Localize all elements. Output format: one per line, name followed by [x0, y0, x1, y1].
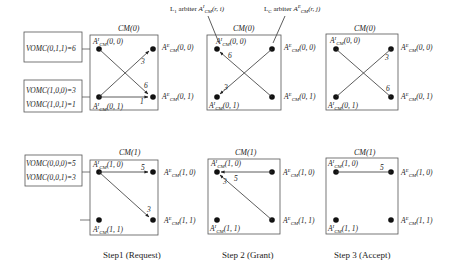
- svg-text:AICM(0, 0): AICM(0, 0): [329, 36, 361, 46]
- output-arbiter-callout: LC arbiter AECM(r, j): [264, 4, 321, 43]
- svg-text:5: 5: [234, 174, 238, 183]
- svg-text:AECM(0, 1): AECM(0, 1): [400, 92, 433, 102]
- svg-text:CM(0): CM(0): [118, 24, 140, 33]
- svg-text:VOMC(1,0,1)=1: VOMC(1,0,1)=1: [26, 100, 76, 109]
- step3-caption: Step 3 (Accept): [334, 250, 390, 260]
- svg-text:VOMC(0,1,1)=6: VOMC(0,1,1)=6: [26, 44, 76, 53]
- step1-caption: Step1 (Request): [103, 250, 161, 260]
- vomc-box-cm0-top: VOMC(0,1,1)=6: [24, 32, 90, 62]
- svg-text:5: 5: [380, 163, 384, 172]
- svg-text:AICM(1, 1): AICM(1, 1): [327, 224, 359, 234]
- svg-text:AICM(1, 0): AICM(1, 0): [210, 159, 242, 169]
- svg-text:6: 6: [228, 51, 232, 60]
- step1-cm0-panel: CM(0) AICM(0, 0) AICM(0, 1) AECM(0, 0) A…: [90, 24, 194, 112]
- svg-text:6: 6: [144, 81, 148, 90]
- svg-text:AECM(1, 1): AECM(1, 1): [163, 216, 196, 226]
- step2-caption: Step 2 (Grant): [222, 250, 274, 260]
- svg-text:1: 1: [140, 97, 144, 106]
- svg-text:AECM(0, 0): AECM(0, 0): [400, 43, 433, 53]
- svg-text:AICM(0, 0): AICM(0, 0): [92, 37, 124, 47]
- svg-text:AECM(1, 0): AECM(1, 0): [400, 168, 433, 178]
- svg-text:AICM(1, 1): AICM(1, 1): [92, 225, 124, 235]
- svg-text:AECM(0, 0): AECM(0, 0): [161, 43, 194, 53]
- vomc-box-cm0-bottom: VOMC(1,0,0)=3 VOMC(1,0,1)=1: [24, 80, 90, 112]
- svg-text:AICM(1, 1): AICM(1, 1): [209, 224, 241, 234]
- svg-text:LC arbiter AECM(r, j): LC arbiter AECM(r, j): [264, 4, 321, 14]
- svg-text:AECM(1, 0): AECM(1, 0): [163, 168, 196, 178]
- svg-text:VOMC(0,0,0)=5: VOMC(0,0,0)=5: [26, 159, 76, 168]
- svg-text:3: 3: [222, 177, 227, 186]
- svg-text:AICM(0, 1): AICM(0, 1): [327, 101, 359, 111]
- svg-text:AECM(1, 1): AECM(1, 1): [282, 216, 315, 226]
- svg-text:AICM(0, 0): AICM(0, 0): [215, 37, 247, 47]
- svg-text:AECM(0, 0): AECM(0, 0): [283, 43, 316, 53]
- svg-text:AECM(0, 1): AECM(0, 1): [283, 92, 316, 102]
- svg-text:5: 5: [141, 163, 145, 172]
- svg-text:CM(0): CM(0): [354, 24, 376, 33]
- svg-text:3: 3: [140, 57, 145, 66]
- svg-text:CM(0): CM(0): [233, 24, 255, 33]
- step3-cm0-panel: CM(0) AICM(0, 0) AICM(0, 1) AECM(0, 0) A…: [326, 24, 433, 111]
- svg-text:3: 3: [223, 83, 228, 92]
- svg-text:VOMC(0,0,1)=3: VOMC(0,0,1)=3: [26, 173, 76, 182]
- svg-text:AECM(1, 1): AECM(1, 1): [400, 216, 433, 226]
- svg-text:L1 arbiter AICM(r, i): L1 arbiter AICM(r, i): [170, 4, 225, 14]
- svg-text:CM(1): CM(1): [354, 148, 376, 157]
- svg-text:3: 3: [146, 205, 151, 214]
- step3-cm1-panel: CM(1) AICM(1, 0) AICM(1, 1) AECM(1, 0) A…: [326, 148, 433, 260]
- svg-text:AICM(1, 0): AICM(1, 0): [327, 159, 359, 169]
- step2-cm0-panel: CM(0) AICM(0, 0) AICM(0, 1) AECM(0, 0) A…: [207, 24, 316, 111]
- svg-text:6: 6: [386, 84, 390, 93]
- vomc-box-cm1-top: VOMC(0,0,0)=5 VOMC(0,0,1)=3: [25, 155, 90, 186]
- crossbar-matching-diagram: L1 arbiter AICM(r, i) LC arbiter AECM(r,…: [0, 0, 461, 268]
- svg-text:CM(1): CM(1): [119, 148, 141, 157]
- svg-text:3: 3: [384, 53, 389, 62]
- svg-text:VOMC(1,0,0)=3: VOMC(1,0,0)=3: [26, 86, 76, 95]
- svg-text:AICM(1, 0): AICM(1, 0): [92, 160, 124, 170]
- svg-text:CM(1): CM(1): [235, 148, 257, 157]
- svg-text:AECM(1, 0): AECM(1, 0): [282, 168, 315, 178]
- step1-cm1-panel: CM(1) AICM(1, 0) AICM(1, 1) AECM(1, 0) A…: [90, 148, 196, 260]
- svg-text:AICM(0, 1): AICM(0, 1): [92, 102, 124, 112]
- svg-text:AECM(0, 1): AECM(0, 1): [161, 92, 194, 102]
- step2-cm1-panel: CM(1) AICM(1, 0) AICM(1, 1) AECM(1, 0) A…: [208, 148, 315, 260]
- svg-text:AICM(0, 1): AICM(0, 1): [208, 101, 240, 111]
